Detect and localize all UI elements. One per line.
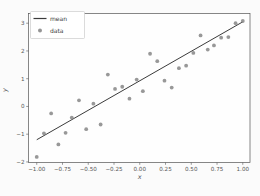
- data-point: [35, 155, 39, 159]
- scatter-plot: −1.00−0.75−0.50−0.250.000.250.500.751.00…: [0, 0, 260, 196]
- data-point: [42, 131, 46, 135]
- y-axis-label: y: [1, 88, 9, 93]
- data-point: [241, 19, 245, 23]
- legend-entry-mean: mean: [50, 15, 67, 22]
- data-point: [135, 78, 139, 82]
- y-tick-label: −1: [16, 131, 25, 137]
- x-tick-label: −0.50: [80, 166, 98, 172]
- y-tick-label: 1: [21, 76, 25, 82]
- data-point: [191, 51, 195, 55]
- legend-entry-data: data: [50, 27, 64, 34]
- x-tick-label: 0.25: [159, 166, 172, 172]
- x-axis-label: x: [137, 173, 142, 181]
- data-point: [206, 48, 210, 52]
- x-tick-label: 0.75: [211, 166, 224, 172]
- y-tick-label: 3: [21, 20, 25, 26]
- data-point: [64, 131, 68, 135]
- x-tick-label: 0.50: [185, 166, 198, 172]
- x-tick-label: −0.75: [54, 166, 72, 172]
- data-point: [56, 143, 60, 147]
- legend-marker-swatch: [38, 29, 42, 33]
- x-tick-label: −0.25: [105, 166, 123, 172]
- data-point: [92, 102, 96, 106]
- data-point: [84, 127, 88, 131]
- data-point: [120, 85, 124, 89]
- data-point: [226, 35, 230, 39]
- legend: mean data: [31, 12, 85, 39]
- x-tick-label: −1.00: [28, 166, 46, 172]
- data-point: [148, 52, 152, 56]
- data-point: [155, 59, 159, 63]
- y-tick-label: −2: [16, 159, 24, 165]
- data-point: [99, 123, 103, 127]
- x-tick-label: 0.00: [134, 166, 147, 172]
- y-tick-label: 0: [21, 103, 25, 109]
- data-point: [77, 98, 81, 102]
- data-point: [184, 64, 188, 68]
- data-point: [199, 34, 203, 38]
- data-point: [219, 36, 223, 40]
- data-point: [212, 44, 216, 48]
- y-tick-label: 2: [21, 48, 25, 54]
- data-point: [177, 66, 181, 70]
- data-point: [106, 73, 110, 77]
- data-point: [128, 97, 132, 101]
- data-point: [70, 116, 74, 120]
- data-point: [163, 79, 167, 83]
- data-point: [234, 21, 238, 25]
- data-point: [141, 89, 145, 93]
- data-point: [170, 86, 174, 90]
- figure: −1.00−0.75−0.50−0.250.000.250.500.751.00…: [0, 0, 260, 196]
- data-point: [113, 87, 117, 91]
- data-point: [49, 111, 53, 115]
- x-tick-label: 1.00: [237, 166, 250, 172]
